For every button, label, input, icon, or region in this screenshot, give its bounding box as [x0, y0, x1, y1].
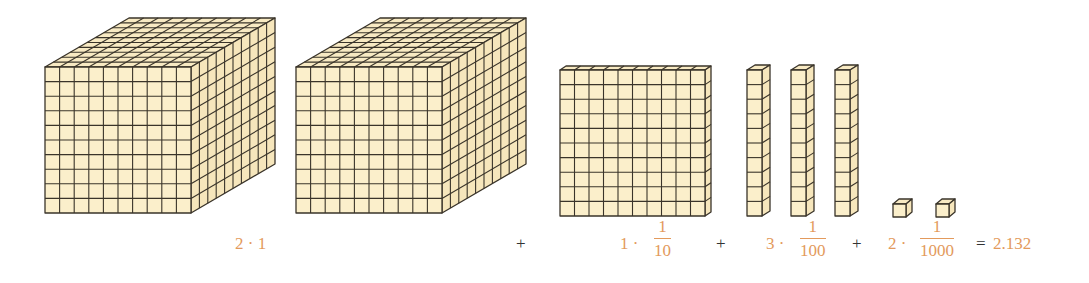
term-tenths-coef: 1 ·: [620, 235, 638, 252]
fraction-denominator: 100: [800, 239, 826, 259]
hundredth-rod-3: [835, 65, 858, 216]
term-ones-label: 2 · 1: [235, 235, 266, 252]
fraction-numerator: 1: [658, 218, 667, 238]
tenth-flat: [560, 66, 711, 216]
equals-sign: =: [976, 235, 986, 252]
fraction-one-tenth: 1 10: [654, 218, 671, 259]
fraction-one-hundredth: 1 100: [800, 218, 826, 259]
term-thousandths-coef: 2 ·: [888, 235, 906, 252]
thousandth-cube-2: [936, 199, 955, 217]
unit-cube-1: [45, 18, 275, 213]
hundredth-rod-1: [747, 65, 770, 216]
fraction-numerator: 1: [933, 218, 942, 238]
fraction-one-thousandth: 1 1000: [920, 218, 954, 259]
plus-operator-1: +: [516, 235, 526, 252]
plus-operator-2: +: [716, 235, 726, 252]
fraction-denominator: 10: [654, 239, 671, 259]
fraction-denominator: 1000: [920, 239, 954, 259]
fraction-numerator: 1: [809, 218, 818, 238]
thousandth-cube-1: [893, 199, 912, 217]
hundredth-rod-2: [791, 65, 814, 216]
unit-cube-2: [296, 18, 526, 213]
plus-operator-3: +: [852, 235, 862, 252]
result-value: 2.132: [993, 235, 1031, 252]
term-hundredths-coef: 3 ·: [766, 235, 784, 252]
